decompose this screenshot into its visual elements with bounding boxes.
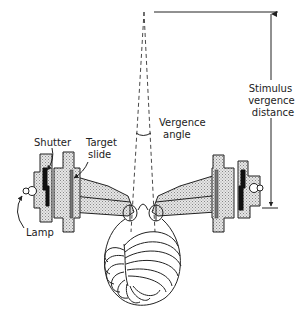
right-projector — [152, 155, 263, 232]
left-target-slide — [70, 170, 73, 218]
right-target-slide — [215, 170, 218, 218]
left-housing — [54, 152, 80, 232]
right-visual-axis — [144, 12, 155, 232]
shutter-label: Shutter — [34, 137, 72, 148]
head-top-view — [104, 219, 181, 305]
left-lamp-icon — [23, 187, 37, 196]
nose — [138, 204, 148, 210]
right-tube — [152, 175, 216, 216]
vergence-angle-label: Vergence angle — [159, 117, 209, 140]
target-slide-label: Target slide — [85, 137, 120, 160]
left-projector — [23, 152, 134, 232]
vergence-angle-arc — [136, 133, 151, 136]
left-visual-axis — [131, 12, 144, 232]
lamp-leader — [17, 196, 24, 228]
head-outline — [104, 219, 180, 305]
right-lamp-icon — [250, 184, 264, 193]
stimulus-distance-label: Stimulus vergence distance — [248, 83, 297, 118]
haploscope-diagram: Stimulus vergence distance Vergence angl… — [0, 0, 297, 313]
lamp-label: Lamp — [26, 227, 54, 238]
